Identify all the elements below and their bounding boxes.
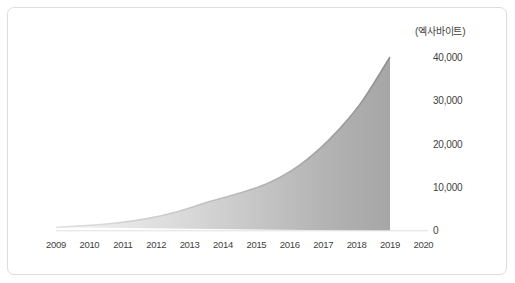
y-axis-unit-label: (엑사바이트) <box>415 23 465 38</box>
x-tick-2012: 2012 <box>139 239 173 250</box>
x-tick-2017: 2017 <box>306 239 340 250</box>
area-series-fill <box>56 57 390 231</box>
y-tick-20000: 20,000 <box>433 139 462 150</box>
x-tick-2013: 2013 <box>173 239 207 250</box>
x-tick-2018: 2018 <box>340 239 374 250</box>
x-tick-2015: 2015 <box>239 239 273 250</box>
x-tick-2014: 2014 <box>206 239 240 250</box>
chart-plot-area: (엑사바이트) 40,000 30,000 20,000 10,000 0 20… <box>8 8 508 276</box>
chart-card: (엑사바이트) 40,000 30,000 20,000 10,000 0 20… <box>7 7 507 275</box>
x-tick-2011: 2011 <box>106 239 140 250</box>
y-tick-0: 0 <box>433 225 438 236</box>
y-tick-40000: 40,000 <box>433 52 462 63</box>
x-tick-2009: 2009 <box>39 239 73 250</box>
x-tick-2016: 2016 <box>273 239 307 250</box>
y-tick-30000: 30,000 <box>433 95 462 106</box>
x-tick-2019: 2019 <box>373 239 407 250</box>
y-tick-10000: 10,000 <box>433 182 462 193</box>
x-tick-2020: 2020 <box>406 239 440 250</box>
x-tick-2010: 2010 <box>72 239 106 250</box>
